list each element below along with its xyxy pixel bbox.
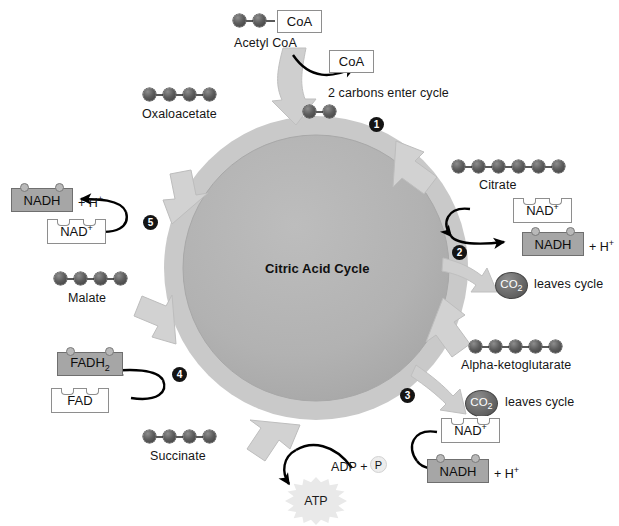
fadh2-box: FADH2 — [57, 352, 123, 376]
step-badge-5[interactable]: 5 — [143, 215, 158, 230]
nad-plus-label: NAD+ — [60, 223, 93, 239]
carbon-bond — [316, 111, 323, 113]
alpha-ketoglutarate-label: Alpha-ketoglutarate — [461, 358, 571, 372]
carbon-bond — [196, 436, 203, 438]
carbon-bead — [549, 340, 562, 353]
nadh-label: NADH — [24, 193, 61, 208]
cycle-title: Citric Acid Cycle — [265, 261, 370, 276]
arrow-fad-to-fadh2 — [131, 380, 164, 399]
arrow-nad-to-nadh-step3 — [412, 431, 437, 461]
carbon-bond — [176, 436, 183, 438]
carbon-bead — [253, 14, 266, 27]
co2-label: CO2 — [470, 396, 492, 411]
co2-leaves-cycle-note-lower: leaves cycle — [505, 395, 574, 409]
oxaloacetate-label: Oxaloacetate — [142, 107, 217, 121]
carbon-bond — [465, 166, 472, 168]
phosphate-circle: P — [370, 456, 387, 473]
co2-disc-step3: CO2 — [465, 390, 498, 417]
carbon-bead — [532, 160, 545, 173]
coa-released-label: CoA — [339, 54, 364, 69]
carbon-bond — [176, 94, 183, 96]
entering-carbons-chain — [303, 105, 336, 118]
co2-leaves-cycle-note-upper: leaves cycle — [534, 277, 603, 291]
nadh-label: NADH — [535, 237, 572, 252]
carbon-bead — [183, 430, 196, 443]
box-notch — [523, 198, 536, 205]
carbon-bond — [156, 94, 163, 96]
co2-label: CO2 — [500, 278, 522, 293]
carbon-bead — [472, 160, 485, 173]
carbon-bead — [489, 340, 502, 353]
carbon-bond — [485, 166, 492, 168]
box-knob — [471, 454, 480, 463]
carbon-bond — [246, 20, 253, 22]
carbon-bead — [143, 88, 156, 101]
succinate-label: Succinate — [150, 449, 206, 463]
carbon-bead — [492, 160, 505, 173]
box-notch — [57, 219, 70, 226]
carbon-bead — [74, 272, 87, 285]
nadh-box-step2: NADH — [522, 232, 584, 256]
carbon-bond — [482, 346, 489, 348]
carbon-bead — [452, 160, 465, 173]
carbon-bond — [156, 436, 163, 438]
carbon-bond — [505, 166, 512, 168]
step-badge-4[interactable]: 4 — [172, 367, 187, 382]
carbon-bead — [529, 340, 542, 353]
carbon-bead — [303, 105, 316, 118]
carbon-bond — [87, 278, 94, 280]
box-knob — [66, 347, 75, 356]
box-notch — [86, 388, 99, 395]
box-knob — [55, 183, 64, 192]
carbon-bead — [54, 272, 67, 285]
box-knob — [566, 227, 575, 236]
malate-label: Malate — [68, 291, 106, 305]
step-badge-2[interactable]: 2 — [452, 245, 467, 260]
carbon-bond — [107, 278, 114, 280]
carbon-bead — [233, 14, 246, 27]
box-knob — [105, 347, 114, 356]
co2-arrow-lower — [411, 365, 466, 414]
carbon-bead — [469, 340, 482, 353]
carbon-bead — [163, 430, 176, 443]
chain-connector — [266, 20, 275, 22]
co2-disc-step2: CO2 — [495, 272, 528, 299]
acetyl-coa-label: Acetyl CoA — [234, 36, 297, 50]
box-notch — [83, 219, 96, 226]
step-badge-3[interactable]: 3 — [400, 388, 415, 403]
carbon-bead — [552, 160, 565, 173]
plus-h-step5: + H+ — [78, 194, 103, 210]
box-notch — [61, 388, 74, 395]
atp-label: ATP — [304, 494, 327, 508]
box-knob — [20, 183, 29, 192]
nad-plus-label: NAD+ — [526, 202, 559, 218]
arrow-adp-to-atp-b — [284, 450, 296, 484]
citric-acid-cycle-diagram: Citric Acid Cycle 1 2 3 4 5 CoA Acetyl C… — [0, 0, 619, 526]
succinate-carbon-chain — [143, 430, 216, 443]
carbon-bead — [323, 105, 336, 118]
fad-box: FAD — [51, 388, 109, 413]
carbon-bond — [542, 346, 549, 348]
step-badge-1[interactable]: 1 — [369, 117, 384, 132]
carbon-bead — [163, 88, 176, 101]
oxaloacetate-carbon-chain — [143, 88, 216, 101]
fadh2-label: FADH2 — [70, 355, 110, 373]
box-knob — [531, 227, 540, 236]
adp-label: ADP + — [331, 460, 368, 474]
nad-plus-box-step5: NAD+ — [47, 219, 106, 244]
carbon-bond — [522, 346, 529, 348]
ring-arrow-left-bottom — [134, 295, 176, 344]
malate-carbon-chain — [54, 272, 127, 285]
ring-arrow-bottom — [247, 420, 300, 461]
carbon-bead — [509, 340, 522, 353]
carbon-bond — [545, 166, 552, 168]
nad-plus-box-step3: NAD+ — [441, 418, 500, 443]
nad-plus-label: NAD+ — [454, 422, 487, 438]
nadh-box-step5: NADH — [11, 188, 73, 212]
citrate-label: Citrate — [479, 178, 517, 192]
box-notch — [451, 418, 464, 425]
carbon-bead — [203, 88, 216, 101]
coa-released-box: CoA — [329, 50, 374, 73]
carbon-bond — [196, 94, 203, 96]
acetyl-coa-carbon-chain — [233, 14, 275, 27]
